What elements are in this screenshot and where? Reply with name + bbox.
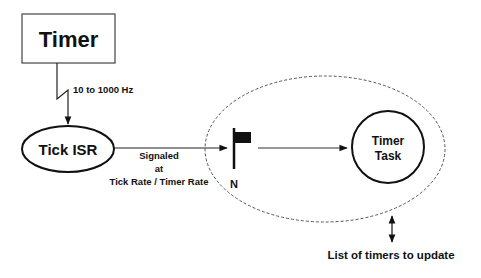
timer-diagram: Timer 10 to 1000 Hz Tick ISR Signaled at… (0, 0, 481, 278)
signal-label: Signaled at Tick Rate / Timer Rate (110, 150, 209, 187)
svg-text:Tick Rate / Timer Rate: Tick Rate / Timer Rate (110, 176, 209, 187)
tick-isr-node: Tick ISR (22, 126, 114, 172)
timer-box-label: Timer (39, 27, 99, 52)
svg-text:at: at (155, 163, 164, 174)
flag-icon (234, 128, 251, 169)
timer-list-label: List of timers to update (327, 249, 454, 261)
timer-box: Timer (22, 14, 115, 63)
svg-text:Task: Task (375, 149, 402, 163)
timer-task-node: Timer Task (352, 111, 424, 183)
interrupt-signal-arrow (57, 63, 68, 124)
tick-isr-label: Tick ISR (39, 141, 98, 158)
svg-text:Timer: Timer (372, 134, 405, 148)
flag-count-label: N (230, 178, 238, 190)
svg-text:Signaled: Signaled (139, 150, 179, 161)
frequency-label: 10 to 1000 Hz (73, 84, 133, 95)
